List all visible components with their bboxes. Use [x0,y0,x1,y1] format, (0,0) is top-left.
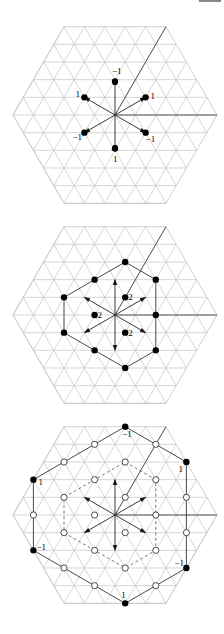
root-arrow [84,497,115,515]
multiplicity-label: 1 [151,91,156,101]
root-arrow [84,115,115,133]
weight-dot-open [61,565,67,571]
multiplicity-label: −1 [112,66,122,76]
weight-dot-filled [153,347,159,353]
weight-diagram-2: 222 [13,227,217,404]
multiplicity-label: 2 [98,310,103,320]
weight-dot-open [30,512,36,518]
weight-dot-filled [122,259,128,265]
root-arrow [115,115,146,133]
weight-dot-filled [112,78,118,84]
weight-dot-open [92,583,98,589]
weight-dot-filled [30,476,36,482]
weight-dot-open [153,441,159,447]
multiplicity-label: −1 [72,132,82,142]
weight-diagram-3: −111−1−11 [13,423,217,606]
weight-dot-open [122,530,128,536]
weight-dot-filled [81,129,87,135]
multiplicity-label: 2 [128,292,133,302]
weight-dot-filled [91,347,97,353]
weight-dot-open [122,494,128,500]
weight-dot-filled [81,94,87,100]
multiplicity-label: −1 [146,134,156,144]
weight-dot-filled [61,294,67,300]
weight-dot-open [61,530,67,536]
weight-dot-filled [183,565,189,571]
multiplicity-label: 1 [38,477,43,487]
weight-dot-filled [183,459,189,465]
weight-dot-open [92,547,98,553]
multiplicity-label: 1 [113,154,118,164]
multiplicity-label: 1 [121,590,126,600]
weight-dot-open [92,512,98,518]
weight-dot-filled [112,145,118,151]
multiplicity-label: −1 [122,429,132,439]
weight-dot-open [122,565,128,571]
weight-diagrams-canvas: −11−11−11222−111−1−11 [0,0,224,634]
root-arrow [84,515,115,533]
weight-dot-open [153,512,159,518]
figures-group: −11−11−11222−111−1−11 [13,27,217,607]
weight-dot-filled [142,94,148,100]
weight-dot-open [61,494,67,500]
weight-dot-filled [61,329,67,335]
root-arrow [84,97,115,115]
weight-dot-open [61,459,67,465]
page-number-cropped [199,0,221,2]
document-page: −11−11−11222−111−1−11 [0,0,224,634]
weight-dot-open [122,459,128,465]
root-arrow [115,515,146,533]
weight-dot-open [183,494,189,500]
weight-dot-open [153,477,159,483]
chamber-wall-diagonal [115,27,166,115]
weight-diagram-1: −11−11−11 [13,27,217,204]
multiplicity-label: −1 [174,558,184,568]
weight-dot-filled [91,276,97,282]
multiplicity-label: 1 [178,464,183,474]
weight-dot-filled [153,312,159,318]
multiplicity-label: 1 [75,89,80,99]
weight-dot-filled [153,276,159,282]
weight-dot-open [183,530,189,536]
weight-dot-open [92,441,98,447]
weight-dot-open [153,583,159,589]
multiplicity-label: −1 [36,542,46,552]
multiplicity-label: 2 [128,328,133,338]
weight-dot-filled [122,600,128,606]
weight-dot-open [153,547,159,553]
weight-dot-open [92,477,98,483]
weight-dot-filled [122,365,128,371]
